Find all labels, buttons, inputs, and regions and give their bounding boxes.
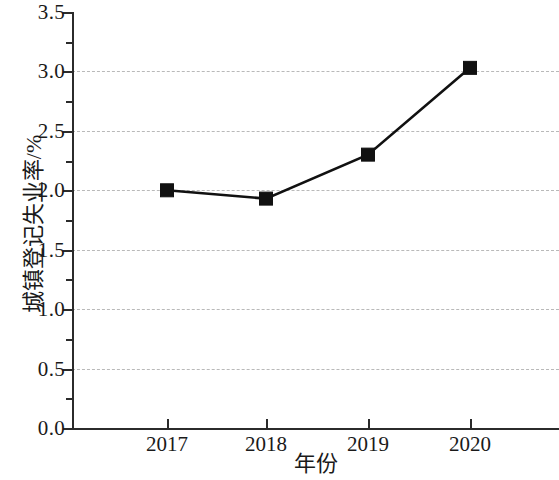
chart-figure: 3.5 3.0 2.5 2.0 1.5 1.0 0.5 0.0 2017 201…	[0, 0, 559, 480]
data-point-2017	[161, 184, 174, 197]
x-axis-title: 年份	[72, 452, 559, 476]
series-markers	[161, 61, 477, 205]
data-point-2020	[464, 61, 477, 74]
data-point-2019	[362, 148, 375, 161]
series-layer	[0, 0, 559, 480]
series-line-unemployment	[167, 68, 470, 199]
y-axis-title: 城镇登记失业率/%	[22, 94, 46, 354]
data-point-2018	[260, 192, 273, 205]
